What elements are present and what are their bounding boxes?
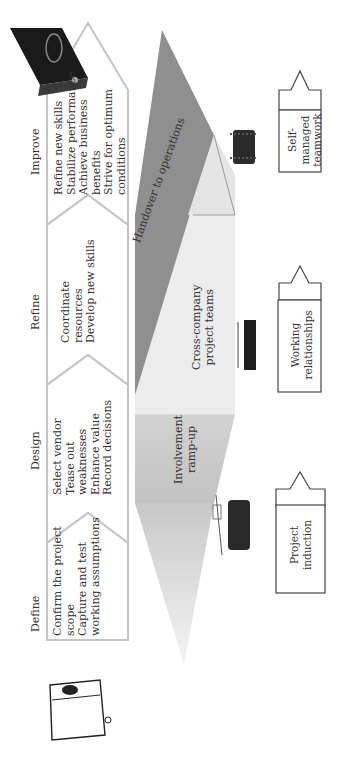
- phase-items-design: Select vendor Tease out weaknesses Enhan…: [52, 400, 115, 495]
- phase-item: working assumptions: [90, 517, 103, 636]
- phase-item: Coordinate: [60, 239, 73, 343]
- band-tip: [135, 503, 214, 665]
- phase-item: Record decisions: [102, 400, 115, 495]
- phase-items-improve: Refine new skills Stabilize performance …: [53, 72, 128, 195]
- phase-item: conditions: [116, 72, 129, 195]
- team-group-clipart-icon: [230, 130, 258, 164]
- box-label-project-induction: Project induction: [288, 510, 313, 580]
- team-table-clipart-icon: [236, 316, 258, 374]
- box-label-working-relationships: Working relationships: [289, 310, 314, 380]
- phase-item: Confirm the project: [52, 517, 65, 636]
- phase-label-define: Define: [29, 596, 42, 632]
- phase-item: Achieve business: [78, 72, 91, 195]
- phase-item: Capture and test: [77, 517, 90, 636]
- binder-open-icon: [50, 680, 111, 740]
- phase-item: Refine new skills: [53, 72, 66, 195]
- phase-item: Select vendor: [52, 400, 65, 495]
- band-label-cross-company: Cross-company project teams: [190, 285, 216, 370]
- phase-item: weaknesses: [77, 400, 90, 495]
- phase-item: Strive for optimum: [103, 72, 116, 195]
- meeting-clipart-icon: [213, 495, 250, 555]
- phase-items-define: Confirm the project scope Capture and te…: [52, 517, 102, 636]
- box-label-self-managed: Self- managed teamwork: [286, 110, 324, 170]
- phase-label-refine: Refine: [29, 294, 42, 330]
- phase-label-design: Design: [29, 431, 42, 470]
- band-label-involvement: Involvement ramp-up: [172, 415, 198, 484]
- phase-item: Develop new skills: [85, 239, 98, 343]
- phase-items-refine: Coordinate resources Develop new skills: [60, 239, 98, 343]
- phase-label-improve: Improve: [29, 129, 42, 175]
